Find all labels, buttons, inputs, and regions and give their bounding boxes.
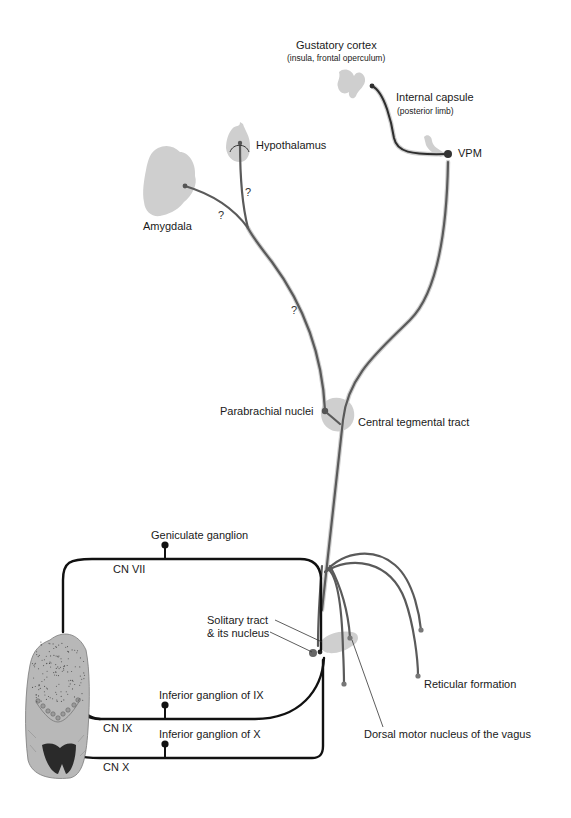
cn7-label: CN VII xyxy=(113,563,145,575)
tongue-illustration xyxy=(26,634,90,778)
tongue-texture-dot xyxy=(68,652,69,653)
tongue-texture-dot xyxy=(38,668,39,669)
parabrachial-ascending-fiber-shadow xyxy=(248,228,325,410)
tongue-texture-dot xyxy=(46,699,47,700)
solitary-nucleus-terminal xyxy=(309,649,317,657)
tongue-texture-dot xyxy=(55,692,56,693)
tongue-texture-dot xyxy=(34,664,35,665)
tongue-texture-dot xyxy=(61,696,62,697)
tongue-texture-dot xyxy=(57,656,58,657)
tongue-texture-dot xyxy=(49,643,50,644)
tongue-texture-dot xyxy=(67,671,68,672)
cn9-label: CN IX xyxy=(103,722,133,734)
tongue-texture-dot xyxy=(56,668,57,669)
tongue-texture-dot xyxy=(46,677,47,678)
tongue-texture-dot xyxy=(63,668,64,669)
tongue-texture-dot xyxy=(50,662,51,663)
tongue-texture-dot xyxy=(53,648,54,649)
tongue-texture-dot xyxy=(74,684,75,685)
uncertain-mark-2: ? xyxy=(218,209,224,221)
solitary-tract-leader xyxy=(275,620,322,642)
tongue-texture-dot xyxy=(50,697,51,698)
dorsal-motor-label: Dorsal motor nucleus of the vagus xyxy=(364,728,531,740)
tongue-texture-dot xyxy=(32,687,33,688)
tongue-texture-dot xyxy=(36,701,37,702)
reticular-branch-outer-2 xyxy=(325,563,418,676)
tongue-texture-dot xyxy=(39,655,40,656)
gustatory-pathway-diagram: Gustatory cortex (insula, frontal opercu… xyxy=(0,0,571,818)
to-amygdala-fiber xyxy=(185,186,248,228)
amygdala-label: Amygdala xyxy=(143,220,193,232)
tongue-texture-dot xyxy=(80,657,81,658)
uncertain-mark-1: ? xyxy=(245,186,251,198)
hypothalamus-region xyxy=(226,122,250,162)
vpm-label: VPM xyxy=(458,147,482,159)
tongue-texture-dot xyxy=(38,689,39,690)
tongue-texture-dot xyxy=(44,679,45,680)
tongue-texture-dot xyxy=(49,651,50,652)
amygdala-region xyxy=(143,146,196,216)
gustatory-cortex-region xyxy=(338,69,366,98)
uncertain-mark-3: ? xyxy=(291,304,297,316)
tongue-texture-dot xyxy=(75,666,76,667)
tongue-texture-dot xyxy=(83,661,84,662)
tongue-texture-dot xyxy=(50,655,51,656)
inferior-x-label: Inferior ganglion of X xyxy=(159,728,261,740)
tongue-texture-dot xyxy=(46,656,47,657)
tongue-texture-dot xyxy=(39,684,40,685)
geniculate-label: Geniculate ganglion xyxy=(151,529,248,541)
tongue-texture-dot xyxy=(71,671,72,672)
tongue-texture-dot xyxy=(58,656,59,657)
dorsal-motor-leader xyxy=(352,640,383,727)
tongue-texture-dot xyxy=(80,676,81,677)
tongue-texture-dot xyxy=(56,675,57,676)
internal-capsule-label: Internal capsule xyxy=(396,91,474,103)
geniculate-ganglion-icon xyxy=(161,541,168,548)
inferior-ganglion-x-icon xyxy=(161,740,168,747)
tongue-texture-dot xyxy=(58,656,59,657)
tongue-texture-dot xyxy=(67,665,68,666)
central-tegmental-tract xyxy=(322,162,448,610)
cn7-fiber xyxy=(63,559,321,650)
hypothalamus-label: Hypothalamus xyxy=(256,139,327,151)
amygdala-terminal xyxy=(183,184,188,189)
reticular-label: Reticular formation xyxy=(424,678,516,690)
tongue-texture-dot xyxy=(46,663,47,664)
tongue-texture-dot xyxy=(56,655,57,656)
solitary-nucleus-region xyxy=(320,631,358,653)
solitary-nucleus-label: & its nucleus xyxy=(207,627,270,639)
solitary-tract-label: Solitary tract xyxy=(207,614,268,626)
tongue-texture-dot xyxy=(74,650,75,651)
tongue-texture-dot xyxy=(84,675,85,676)
tongue-texture-dot xyxy=(60,658,61,659)
tongue-texture-dot xyxy=(49,662,50,663)
tongue-texture-dot xyxy=(76,652,77,653)
tongue-texture-dot xyxy=(55,664,56,665)
tongue-texture-dot xyxy=(33,665,34,666)
tongue-texture-dot xyxy=(77,650,78,651)
tongue-texture-dot xyxy=(56,699,57,700)
tongue-texture-dot xyxy=(44,694,45,695)
tongue-texture-dot xyxy=(67,646,68,647)
gustatory-cortex-label: Gustatory cortex xyxy=(296,39,377,51)
tongue-texture-dot xyxy=(40,688,41,689)
tongue-texture-dot xyxy=(53,655,54,656)
cn10-label: CN X xyxy=(103,761,130,773)
tongue-texture-dot xyxy=(46,687,47,688)
tongue-texture-dot xyxy=(38,656,39,657)
gustatory-cortex-terminal xyxy=(370,84,375,89)
tongue-texture-dot xyxy=(33,677,34,678)
tongue-texture-dot xyxy=(78,700,79,701)
tongue-texture-dot xyxy=(41,644,42,645)
inferior-ganglion-ix-icon xyxy=(161,701,168,708)
hypothalamus-terminal xyxy=(238,141,242,145)
tongue-texture-dot xyxy=(58,675,59,676)
tongue-texture-dot xyxy=(34,666,35,667)
vpm-terminal xyxy=(444,150,452,158)
tongue-texture-dot xyxy=(65,647,66,648)
central-tegmental-label: Central tegmental tract xyxy=(358,416,469,428)
tongue-texture-dot xyxy=(47,688,48,689)
tongue-texture-dot xyxy=(67,651,68,652)
tongue-texture-dot xyxy=(83,678,84,679)
tongue-texture-dot xyxy=(44,691,45,692)
